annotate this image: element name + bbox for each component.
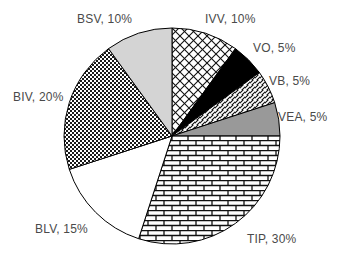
pie-slices-group xyxy=(64,28,280,244)
pie-slice-label-vea: VEA, 5% xyxy=(278,110,327,124)
pie-slice-label-vb: VB, 5% xyxy=(269,74,310,88)
pie-slice-label-biv: BIV, 20% xyxy=(13,90,64,104)
pie-chart-figure: IVV, 10% VO, 5% VB, 5% VEA, 5% TIP, 30% … xyxy=(0,0,349,261)
pie-slice-label-tip: TIP, 30% xyxy=(247,232,296,246)
pie-slice-label-blv: BLV, 15% xyxy=(35,222,88,236)
pie-slice-label-ivv: IVV, 10% xyxy=(205,12,256,26)
pie-slice-label-vo: VO, 5% xyxy=(253,41,296,55)
pie-slice-label-bsv: BSV, 10% xyxy=(77,12,132,26)
